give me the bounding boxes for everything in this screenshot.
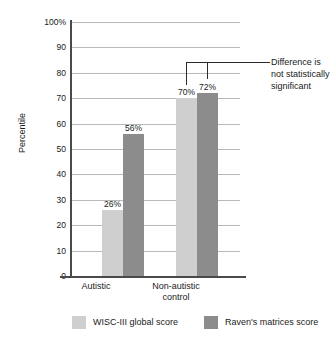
gridline-80 (72, 73, 240, 74)
bar-value-autistic-wisc: 26% (96, 200, 129, 209)
annotation-bracket-left-leg (186, 62, 187, 85)
x-category-label-autistic: Autistic (72, 281, 120, 292)
annotation-leader-line (241, 62, 270, 63)
bar-value-autistic-raven: 56% (117, 124, 150, 133)
y-tick-40: 40 (26, 170, 66, 179)
y-tick-50: 50 (26, 145, 66, 154)
y-tick-90: 90 (26, 43, 66, 52)
y-tick-100: 100% (26, 18, 66, 27)
legend-item-wisc[interactable]: WISC-III global score (72, 316, 178, 329)
plot-area: 26% 56% 70% 72% (72, 22, 240, 276)
y-tick-70: 70 (26, 94, 66, 103)
x-category-label-non-autistic-control: Non-autistic control (144, 281, 208, 303)
annotation-bracket-right-leg (207, 62, 208, 79)
bar-value-control-raven: 72% (191, 83, 224, 92)
y-tick-60: 60 (26, 120, 66, 129)
legend-swatch-raven-icon (204, 316, 218, 329)
chart-legend: WISC-III global score Raven's matrices s… (0, 316, 335, 336)
legend-label-raven: Raven's matrices score (225, 316, 318, 329)
percentile-bar-chart: 100% 90 80 70 60 50 40 30 20 10 0 Percen… (0, 0, 335, 338)
y-tick-30: 30 (26, 196, 66, 205)
y-tick-20: 20 (26, 221, 66, 230)
x-axis-line (60, 276, 246, 278)
y-axis-tick-labels: 100% 90 80 70 60 50 40 30 20 10 0 (22, 22, 66, 276)
y-tick-10: 10 (26, 247, 66, 256)
annotation-bracket-top (186, 62, 242, 63)
legend-label-wisc: WISC-III global score (93, 316, 178, 329)
gridline-100 (72, 22, 240, 23)
annotation-text-difference-not-significant: Difference is not statistically signific… (271, 56, 335, 92)
bar-autistic-wisc[interactable] (102, 210, 123, 276)
y-tick-80: 80 (26, 69, 66, 78)
y-axis-title: Percentile (17, 93, 27, 173)
legend-swatch-wisc-icon (72, 316, 86, 329)
bar-control-wisc[interactable] (176, 98, 197, 276)
bar-control-raven[interactable] (197, 93, 218, 276)
gridline-90 (72, 47, 240, 48)
legend-item-raven[interactable]: Raven's matrices score (204, 316, 318, 329)
